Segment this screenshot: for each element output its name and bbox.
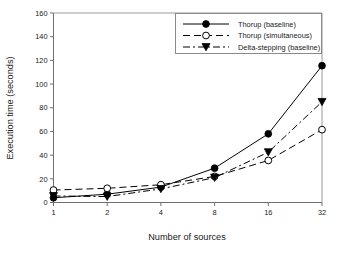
- data-point-marker: [319, 126, 326, 133]
- y-tick-label: 160: [35, 9, 47, 18]
- series-line: [54, 66, 323, 198]
- x-tick-label: 2: [105, 208, 109, 217]
- y-tick-label: 120: [35, 56, 47, 65]
- x-tick-label: 8: [213, 208, 217, 217]
- x-tick-label: 16: [264, 208, 272, 217]
- y-tick-label: 80: [39, 103, 47, 112]
- data-point-marker: [104, 185, 111, 192]
- data-point-marker: [265, 130, 272, 137]
- chart-canvas: 020406080100120140160 12481632 Number of…: [0, 0, 340, 255]
- legend-sample-marker: [203, 21, 210, 28]
- y-tick-label: 20: [39, 175, 47, 184]
- y-tick-label: 60: [39, 127, 47, 136]
- series-line: [54, 130, 323, 190]
- x-axis-ticks: 12481632: [51, 203, 326, 218]
- x-tick-label: 32: [318, 208, 326, 217]
- x-axis-title: Number of sources: [148, 232, 226, 242]
- y-axis-title: Execution time (seconds): [5, 56, 15, 159]
- y-tick-label: 100: [35, 80, 47, 89]
- series-layer: [50, 62, 327, 201]
- execution-time-line-chart: 020406080100120140160 12481632 Number of…: [0, 0, 340, 255]
- chart-legend: Thorup (baseline)Thorup (simultaneous)De…: [176, 14, 322, 54]
- data-point-marker: [211, 165, 218, 172]
- legend-label: Delta-stepping (baseline): [238, 43, 320, 52]
- y-axis-ticks: 020406080100120140160: [35, 9, 53, 208]
- data-point-marker: [319, 62, 326, 69]
- x-tick-label: 4: [159, 208, 163, 217]
- y-tick-label: 40: [39, 151, 47, 160]
- y-tick-label: 140: [35, 32, 47, 41]
- x-tick-label: 1: [51, 208, 55, 217]
- legend-label: Thorup (baseline): [238, 20, 296, 29]
- legend-label: Thorup (simultaneous): [238, 31, 312, 40]
- data-point-marker: [265, 157, 272, 164]
- y-tick-label: 0: [43, 198, 47, 207]
- legend-sample-marker: [203, 32, 210, 39]
- data-point-marker: [264, 149, 272, 156]
